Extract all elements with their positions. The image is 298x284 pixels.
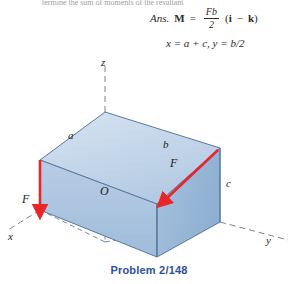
axis-label-z: z	[101, 56, 105, 68]
diagram-svg	[0, 52, 298, 267]
box-solid	[40, 112, 220, 257]
fraction-numerator: Fb	[204, 7, 219, 17]
answer-line-2: x = a + c, y = b/2	[150, 37, 298, 49]
unit-vector-i: i	[229, 13, 232, 24]
edge-label-a: a	[68, 129, 74, 141]
force-label-left: F	[22, 192, 29, 207]
cropped-text-line: termine the sum of moments of the result…	[42, 0, 242, 5]
equals-sign: =	[190, 13, 196, 24]
fraction-fb-over-2: Fb 2	[204, 7, 219, 30]
edge-label-c: c	[226, 177, 231, 189]
minus-sign: −	[237, 13, 243, 24]
figure-caption: Problem 2/148	[0, 264, 298, 276]
axis-y-line	[220, 222, 288, 240]
paren-close: )	[254, 13, 258, 24]
moment-symbol: M	[174, 13, 184, 24]
figure-page: termine the sum of moments of the result…	[0, 0, 298, 284]
answer-line-1: Ans. M = Fb 2 ( i − k )	[150, 7, 298, 30]
edge-label-b: b	[163, 138, 169, 150]
fraction-denominator: 2	[209, 20, 214, 30]
origin-label: O	[100, 184, 109, 199]
box-force-diagram: z x y O a b c F F	[0, 52, 298, 267]
ans-label: Ans.	[150, 13, 169, 24]
axis-label-y: y	[266, 234, 271, 246]
force-label-right: F	[170, 156, 177, 171]
axis-x-line	[8, 210, 40, 230]
axis-label-x: x	[8, 230, 13, 242]
answer-block: Ans. M = Fb 2 ( i − k ) x = a + c, y = b…	[150, 7, 298, 49]
